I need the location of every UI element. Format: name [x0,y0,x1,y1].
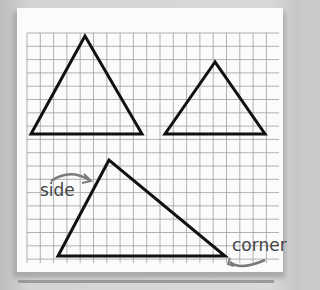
side-label: side [40,182,75,199]
grid-lines [27,33,279,263]
corner-label: corner [232,237,287,254]
corner-arrow [230,260,265,266]
triangles [31,36,265,256]
triangle-top-left [31,36,142,134]
